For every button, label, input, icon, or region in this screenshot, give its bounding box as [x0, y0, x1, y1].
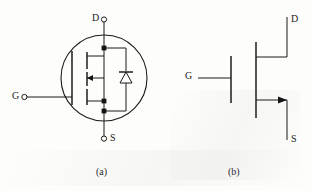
junction-dot-source-branch-a	[102, 99, 107, 104]
channel-arrow-head-a	[87, 75, 93, 81]
channel-arrow-head-b	[278, 97, 287, 104]
drain-terminal-ring-a[interactable]	[101, 17, 106, 22]
drain-label-b: D	[291, 14, 298, 24]
diagram-a-circuit	[0, 0, 156, 160]
gate-label-b: G	[185, 71, 192, 81]
source-label-a: S	[110, 133, 116, 143]
junction-dot-drain-a	[102, 46, 107, 51]
source-terminal-ring-a[interactable]	[101, 136, 106, 141]
junction-dot-source-a	[102, 109, 107, 114]
caption-a: (a)	[96, 167, 107, 177]
body-diode-triangle-a	[120, 72, 132, 83]
drain-label-a: D	[92, 13, 99, 23]
gate-terminal-ring-a[interactable]	[22, 94, 27, 99]
source-label-b: S	[291, 134, 297, 144]
diagram-b-circuit	[156, 0, 312, 160]
caption-b: (b)	[228, 167, 240, 177]
gate-label-a: G	[12, 91, 19, 101]
figure-root: D G S (a) D G S (b)	[0, 0, 312, 191]
